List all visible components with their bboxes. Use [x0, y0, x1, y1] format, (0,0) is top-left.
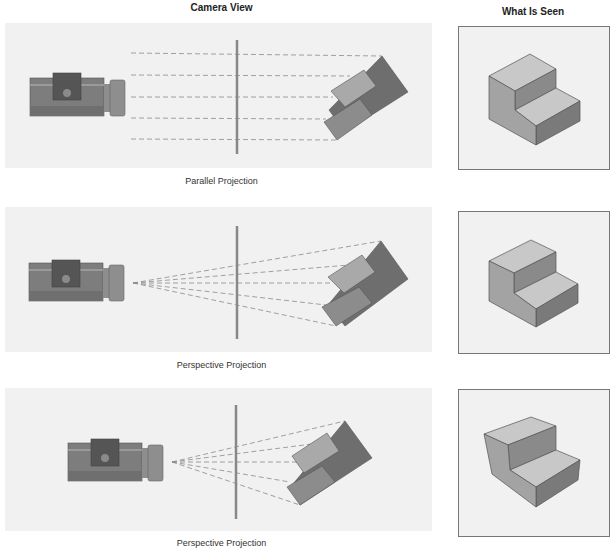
seen-object-perspective-2 — [0, 0, 614, 544]
